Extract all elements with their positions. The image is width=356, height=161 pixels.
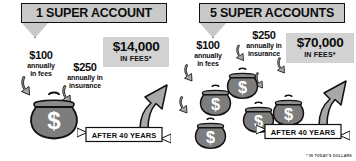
purse-dollar-symbol: $ (206, 128, 215, 146)
fee-caption: IN FEES* (109, 55, 163, 63)
ribbon-after-40-years: AFTER 40 YEARS (77, 126, 171, 145)
purse-dollar-symbol: $ (47, 107, 61, 134)
banner-label: 5 SUPER ACCOUNTS (210, 6, 334, 20)
purse-icon: $ (224, 66, 261, 100)
curved-arrow-down-icon (184, 64, 200, 82)
footnote: * IN TODAY'S DOLLARS (306, 154, 352, 158)
curved-arrow-down-icon (179, 96, 195, 114)
ribbon-after-40-years: AFTER 40 YEARS (256, 123, 350, 142)
banner-label: 1 SUPER ACCOUNT (36, 6, 152, 20)
purse-icon: $ (270, 93, 307, 127)
banner-box: 5 SUPER ACCOUNTS (199, 3, 345, 23)
panel-five-super-accounts: 5 SUPER ACCOUNTS $70,000 IN FEES* $100 a… (178, 0, 356, 161)
purse-dollar-symbol: $ (284, 105, 293, 123)
banner-one-super-account: 1 SUPER ACCOUNT (8, 3, 170, 33)
note-amount: $250 (57, 62, 113, 74)
note-amount: $250 (238, 30, 290, 42)
fee-amount: $14,000 (109, 40, 163, 54)
banner-box: 1 SUPER ACCOUNT (21, 3, 167, 23)
note-amount: $100 (184, 40, 232, 52)
purse-dollar-symbol: $ (211, 95, 220, 113)
note-desc-line1: annually (184, 52, 232, 59)
note-desc-line1: annually in (57, 74, 113, 81)
curved-arrow-down-icon (236, 44, 251, 62)
fee-amount: $70,000 (292, 36, 348, 50)
note-amount: $100 (18, 50, 64, 62)
curved-arrow-down-icon (277, 57, 292, 74)
purse-dollar-symbol: $ (238, 78, 247, 96)
banner-pointer-tab (199, 22, 227, 38)
purse-icon: $ (26, 89, 82, 141)
fee-caption: IN FEES* (292, 51, 348, 59)
panel-one-super-account: 1 SUPER ACCOUNT $14,000 IN FEES* $100 an… (0, 0, 178, 161)
purse-icon: $ (192, 116, 229, 150)
fee-callout-box: $70,000 IN FEES* (286, 33, 354, 63)
banner-pointer-tab (21, 22, 49, 38)
